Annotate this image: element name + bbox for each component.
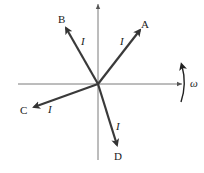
- phasor-group: AIBICIDI: [20, 13, 149, 162]
- phasor-label-d: D: [114, 150, 122, 162]
- phasor-label-c: C: [20, 104, 27, 116]
- phasor-diagram: AIBICIDI ω: [0, 0, 204, 173]
- phasor-a: [98, 30, 140, 84]
- phasor-label-a: A: [141, 18, 149, 30]
- phasor-label-b: B: [58, 13, 65, 25]
- magnitude-label-a: I: [119, 35, 125, 47]
- phasor-d: [98, 84, 117, 145]
- omega-label: ω: [190, 77, 198, 89]
- magnitude-label-d: I: [115, 120, 121, 132]
- magnitude-label-b: I: [80, 35, 86, 47]
- diagram-canvas: AIBICIDI ω: [0, 0, 204, 173]
- magnitude-label-c: I: [47, 103, 53, 115]
- phasor-c: [34, 84, 98, 107]
